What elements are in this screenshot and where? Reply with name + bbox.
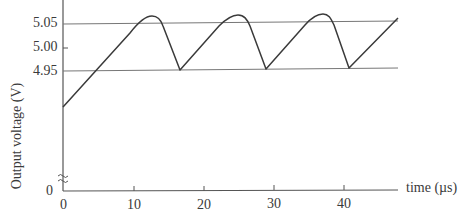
x-axis bbox=[63, 190, 398, 191]
y-tick-label-495: 4.95 bbox=[33, 63, 58, 79]
voltage-curve bbox=[63, 14, 398, 107]
y-tick-label-505: 5.05 bbox=[33, 15, 58, 31]
y-tick-label-500: 5.00 bbox=[33, 39, 58, 55]
x-tick-label-10: 10 bbox=[127, 197, 141, 213]
x-tick-label-20: 20 bbox=[197, 197, 211, 213]
x-axis-title: time (µs) bbox=[406, 180, 457, 196]
upper-threshold-line bbox=[63, 21, 398, 24]
x-tick-label-0: 0 bbox=[60, 197, 67, 213]
lower-threshold-line bbox=[63, 68, 398, 71]
x-tick-label-40: 40 bbox=[337, 196, 351, 212]
y-tick-label-0: 0 bbox=[46, 183, 53, 199]
chart-canvas bbox=[0, 0, 458, 216]
x-tick-label-30: 30 bbox=[267, 196, 281, 212]
y-axis-title: Output voltage (V) bbox=[9, 81, 25, 191]
